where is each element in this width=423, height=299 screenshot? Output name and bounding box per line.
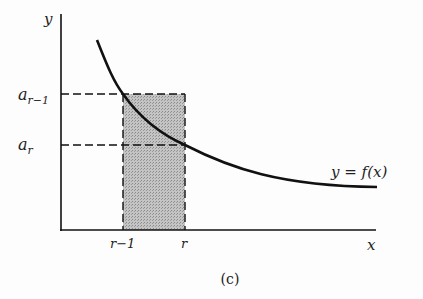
shaded-rectangle xyxy=(123,94,185,230)
x-tick-r-1: r−1 xyxy=(110,236,135,251)
y-tick-ar-1: ar−1 xyxy=(18,85,49,107)
y-tick-ar: ar xyxy=(18,135,34,157)
figure-caption: (c) xyxy=(221,271,240,287)
curve-label: y = f(x) xyxy=(330,163,387,181)
x-tick-r: r xyxy=(181,236,188,251)
x-axis-label: x xyxy=(367,236,376,254)
y-axis-label: y xyxy=(43,10,53,28)
diagram: y x ar−1 ar r−1 r y = f(x) (c) xyxy=(0,0,423,299)
